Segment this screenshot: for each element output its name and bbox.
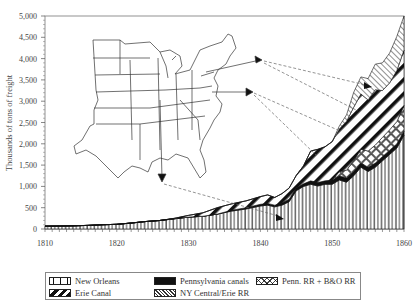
x-tick-label: 1820 — [109, 239, 125, 248]
ny-central-swatch — [154, 289, 176, 297]
x-tick-label: 1850 — [324, 239, 340, 248]
y-tick-label: 0 — [33, 225, 37, 234]
x-tick-label: 1860 — [396, 239, 412, 248]
y-axis: 05001,0001,5002,0002,5003,0003,5004,0004… — [19, 12, 45, 234]
x-axis: 181018201830184018501860 — [37, 229, 412, 248]
y-tick-label: 2,500 — [19, 119, 37, 128]
y-tick-label: 5,000 — [19, 12, 37, 21]
us-map-inset — [74, 34, 236, 178]
freight-chart: 05001,0001,5002,0002,5003,0003,5004,0004… — [0, 0, 418, 250]
x-tick-label: 1810 — [37, 239, 53, 248]
y-tick-label: 500 — [25, 204, 37, 213]
penn-rr-swatch — [256, 277, 278, 285]
y-tick-label: 4,000 — [19, 55, 37, 64]
y-tick-label: 3,000 — [19, 97, 37, 106]
legend-item-pennsylvania-canals: Pennsylvania canals — [154, 276, 249, 286]
new-orleans-swatch — [49, 277, 71, 285]
map-arrows — [158, 56, 262, 182]
stacked-areas — [45, 16, 404, 229]
legend: New Orleans Erie Canal Pennsylvania cana… — [45, 272, 361, 300]
y-tick-label: 4,500 — [19, 33, 37, 42]
y-tick-label: 1,500 — [19, 161, 37, 170]
legend-item-new-orleans: New Orleans — [49, 276, 120, 286]
y-tick-label: 3,500 — [19, 76, 37, 85]
legend-item-erie-canal: Erie Canal — [49, 288, 111, 298]
x-tick-label: 1830 — [181, 239, 197, 248]
erie-canal-swatch — [49, 289, 71, 297]
legend-item-penn-rr-bo-rr: Penn. RR + B&O RR — [256, 276, 356, 286]
x-tick-label: 1840 — [252, 239, 268, 248]
y-axis-label: Thousands of tons of freight — [4, 74, 14, 171]
y-tick-label: 1,000 — [19, 182, 37, 191]
y-tick-label: 2,000 — [19, 140, 37, 149]
pennsylvania-canals-swatch — [154, 277, 176, 285]
legend-item-ny-central-erie-rr: NY Central/Erie RR — [154, 288, 249, 298]
